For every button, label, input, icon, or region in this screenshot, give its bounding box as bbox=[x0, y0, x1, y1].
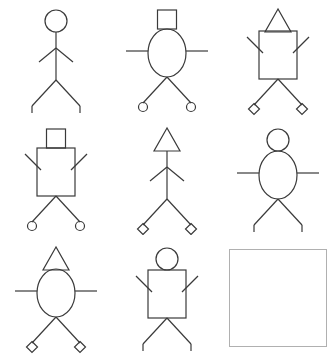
matrix-cell-9[interactable] bbox=[223, 238, 334, 357]
matrix-cell-6 bbox=[223, 119, 334, 238]
answer-slot[interactable] bbox=[229, 249, 327, 347]
figure-3 bbox=[228, 4, 328, 116]
matrix-cell-4 bbox=[0, 119, 111, 238]
matrix-cell-7 bbox=[0, 238, 111, 357]
figure-6 bbox=[228, 123, 328, 235]
figure-5 bbox=[117, 123, 217, 235]
matrix-grid bbox=[0, 0, 334, 357]
matrix-cell-3 bbox=[223, 0, 334, 119]
matrix-cell-8 bbox=[111, 238, 222, 357]
figure-7 bbox=[6, 242, 106, 354]
figure-2 bbox=[117, 4, 217, 116]
matrix-cell-5 bbox=[111, 119, 222, 238]
figure-4 bbox=[6, 123, 106, 235]
figure-1 bbox=[6, 4, 106, 116]
matrix-cell-1 bbox=[0, 0, 111, 119]
matrix-cell-2 bbox=[111, 0, 222, 119]
figure-8 bbox=[117, 242, 217, 354]
